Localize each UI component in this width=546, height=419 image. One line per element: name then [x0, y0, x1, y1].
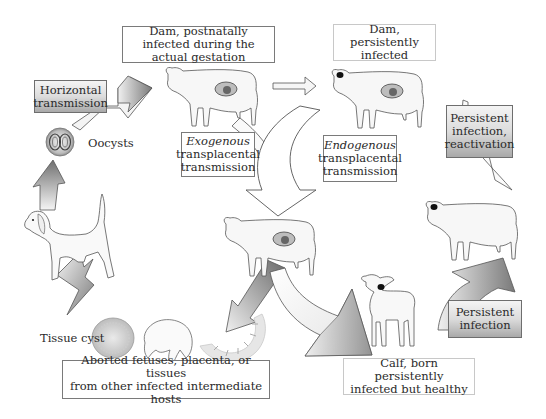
calf	[362, 275, 415, 346]
cow-postnatal-dam	[166, 67, 257, 126]
box-persistent-infection: Persistent infection	[448, 300, 522, 338]
box-exogenous-line3: transmission	[181, 161, 256, 174]
box-exogenous-transmission: Exogenous transplacental transmission	[181, 132, 255, 177]
label-oocysts: Oocysts	[88, 136, 134, 150]
box-endogenous-transmission: Endogenous transplacental transmission	[323, 135, 397, 182]
box-dam-persistent-line2: infected	[361, 49, 408, 62]
oocyst	[46, 128, 74, 156]
box-dam-postnatal: Dam, postnatally infected during the act…	[122, 26, 275, 63]
box-calf-line1: Calf, born persistently	[344, 357, 474, 383]
label-tissue-cyst: Tissue cyst	[40, 331, 104, 345]
box-aborted-line2: from other infected intermediate hosts	[63, 380, 269, 406]
endogenous-curved-arrow	[246, 106, 320, 216]
box-dam-postnatal-line2: infected during the actual gestation	[123, 38, 274, 64]
cow-adult-right	[426, 201, 517, 260]
diagram-canvas: Dam, postnatally infected during the act…	[0, 0, 546, 419]
box-persistent-reactivation: Persistent infection, reactivation	[446, 105, 513, 158]
dog-to-oocysts-arrow	[33, 160, 65, 210]
box-calf-born: Calf, born persistently infected but hea…	[343, 358, 475, 395]
box-aborted-line1: Aborted fetuses, placenta, or tissues	[63, 354, 269, 380]
box-calf-line2: infected but healthy	[350, 383, 467, 396]
box-dam-persistent: Dam, persistently infected	[333, 24, 436, 61]
box-aborted-tissues: Aborted fetuses, placenta, or tissues fr…	[62, 360, 270, 399]
box-dam-persistent-line1: Dam, persistently	[334, 23, 435, 49]
box-persistent-infection-line2: infection	[459, 319, 510, 332]
box-endogenous-line3: transmission	[323, 165, 398, 178]
dam-to-dam-arrow	[273, 77, 316, 95]
cow-persistent-dam	[332, 69, 423, 128]
box-reactivation-line3: reactivation	[445, 138, 515, 151]
tissue-to-dog-arrow	[57, 252, 94, 315]
box-horizontal-transmission: Horizontal transmission	[34, 80, 107, 113]
box-horizontal-line2: transmission	[33, 97, 108, 110]
box-horizontal-line1: Horizontal	[40, 84, 102, 97]
birth-arrow	[270, 268, 372, 356]
